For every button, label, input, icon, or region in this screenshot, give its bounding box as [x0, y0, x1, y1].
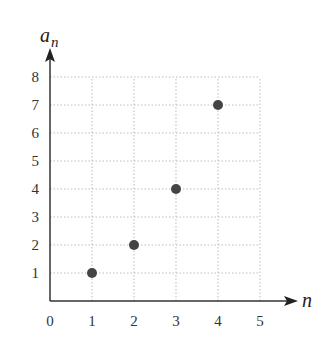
x-tick-label: 3 — [172, 313, 180, 329]
x-axis-label: n — [302, 289, 312, 311]
data-point — [129, 240, 139, 250]
y-tick-label: 5 — [32, 153, 40, 169]
y-tick-label: 1 — [32, 265, 40, 281]
data-point — [87, 268, 97, 278]
y-tick-label: 6 — [32, 125, 40, 141]
x-tick-label: 4 — [214, 313, 222, 329]
x-tick-label: 0 — [46, 313, 54, 329]
y-tick-label: 3 — [32, 209, 40, 225]
data-point — [171, 184, 181, 194]
x-tick-label: 1 — [88, 313, 96, 329]
x-tick-labels: 012345 — [46, 313, 264, 329]
y-tick-label: 8 — [32, 69, 40, 85]
x-tick-label: 5 — [256, 313, 264, 329]
x-tick-label: 2 — [130, 313, 138, 329]
grid — [50, 77, 260, 301]
scatter-chart: 012345 12345678 an n — [0, 0, 332, 343]
y-tick-label: 2 — [32, 237, 40, 253]
y-tick-labels: 12345678 — [32, 69, 40, 281]
y-tick-label: 4 — [32, 181, 40, 197]
y-axis-label-subscript: n — [51, 34, 59, 50]
y-tick-label: 7 — [32, 97, 40, 113]
data-point — [213, 100, 223, 110]
y-axis-label: an — [40, 24, 59, 50]
